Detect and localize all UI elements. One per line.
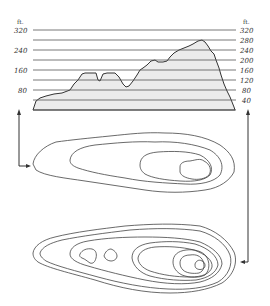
topographic-figure: ft. ft. 320 240 160 80 320 280 240 200 1… [0, 0, 270, 306]
lower-contour-1 [33, 224, 236, 293]
right-label-160: 160 [240, 67, 254, 75]
upper-contour-map [33, 133, 234, 193]
right-arrow [240, 109, 250, 264]
upper-contour-summit [180, 159, 210, 179]
right-label-320: 320 [240, 27, 254, 35]
lower-small-closed-contour-a [80, 249, 97, 264]
right-label-120: 120 [240, 77, 254, 85]
unit-left: ft. [17, 18, 24, 25]
left-label-320: 320 [14, 27, 28, 35]
right-label-80: 80 [242, 87, 251, 95]
unit-right: ft. [243, 18, 250, 25]
left-label-240: 240 [13, 47, 28, 55]
right-label-280: 280 [239, 37, 254, 45]
right-label-200: 200 [239, 57, 254, 65]
lower-contour-summit [195, 260, 205, 269]
left-axis: 320 240 160 80 [13, 27, 28, 95]
right-axis: 320 280 240 200 160 120 80 40 [239, 27, 254, 105]
upper-contour-3 [140, 151, 212, 181]
right-label-240: 240 [239, 47, 254, 55]
left-arrow [17, 109, 31, 168]
arrow-right-head-icon [26, 164, 31, 168]
arrow-up-head-icon [246, 109, 250, 115]
lower-contour-5 [138, 247, 212, 277]
elevation-profile [33, 40, 235, 110]
lower-small-closed-contour-b [104, 249, 117, 261]
upper-contour-1 [33, 133, 234, 193]
left-label-160: 160 [14, 67, 28, 75]
lower-contour-7 [180, 255, 204, 274]
left-label-80: 80 [18, 87, 27, 95]
upper-contour-2 [70, 142, 222, 184]
arrow-left-head-icon [240, 260, 245, 264]
lower-contour-map [33, 224, 236, 293]
arrow-up-head-icon [17, 109, 21, 115]
right-label-40: 40 [241, 97, 251, 105]
